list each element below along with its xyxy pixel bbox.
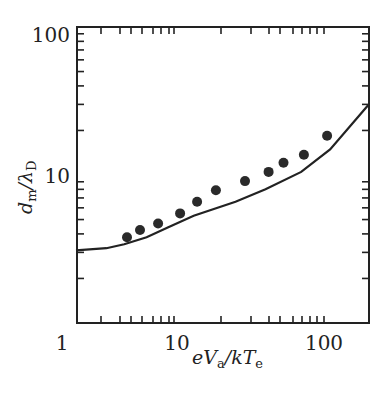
data-point — [175, 208, 185, 218]
y-tick-100: 100 — [32, 23, 70, 47]
data-point — [299, 150, 309, 160]
chart: 100 10 1 10 100 eVa/kTe dm/λD — [0, 0, 388, 395]
data-point — [279, 158, 289, 168]
x-tick-100: 100 — [305, 331, 343, 355]
x-tick-10: 10 — [164, 331, 189, 355]
data-point — [211, 185, 221, 195]
x-axis-label: eVa/kTe — [192, 346, 263, 371]
axis-ticks — [77, 27, 369, 323]
y-axis-label: dm/λD — [14, 161, 39, 214]
data-point — [135, 225, 145, 235]
theory-curve — [76, 105, 368, 250]
plot-frame — [77, 27, 369, 323]
x-label-ev: eV — [192, 346, 219, 368]
y-label-sub-m: m — [24, 190, 39, 202]
data-point — [122, 232, 132, 242]
data-point — [153, 219, 163, 229]
data-points — [122, 131, 332, 242]
y-tick-10: 10 — [45, 164, 70, 188]
x-label-sub-e: e — [255, 356, 263, 371]
data-point — [322, 131, 332, 141]
x-label-kt: /kT — [223, 346, 257, 368]
x-tick-1: 1 — [56, 331, 69, 355]
y-label-d: d — [14, 202, 36, 214]
data-point — [264, 167, 274, 177]
y-label-sub-d: D — [24, 161, 39, 171]
data-point — [192, 197, 202, 207]
data-point — [240, 176, 250, 186]
y-label-lambda: /λ — [14, 171, 36, 191]
